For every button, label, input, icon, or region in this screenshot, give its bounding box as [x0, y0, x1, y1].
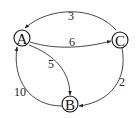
edge-b-to-a-weight: 10: [14, 85, 26, 99]
edge-a-to-b: 5: [29, 45, 70, 95]
node-c-label: C: [115, 33, 125, 49]
node-c: C: [112, 32, 128, 49]
edge-c-to-b: 2: [79, 48, 125, 106]
node-b: B: [62, 96, 78, 113]
node-b-label: B: [65, 97, 75, 113]
edge-a-to-b-weight: 5: [48, 57, 54, 71]
edge-c-to-b-line: [79, 48, 123, 106]
graph-diagram: 3 6 5 10 2 A B C: [0, 0, 136, 118]
node-a: A: [14, 30, 30, 47]
node-a-label: A: [17, 31, 28, 47]
edge-a-to-c-weight: 6: [69, 35, 75, 49]
edge-c-to-a: 3: [25, 9, 116, 30]
edge-c-to-b-weight: 2: [119, 75, 125, 89]
edge-b-to-a: 10: [14, 47, 62, 106]
edge-a-to-c: 6: [30, 35, 111, 49]
edge-c-to-a-weight: 3: [68, 9, 74, 23]
